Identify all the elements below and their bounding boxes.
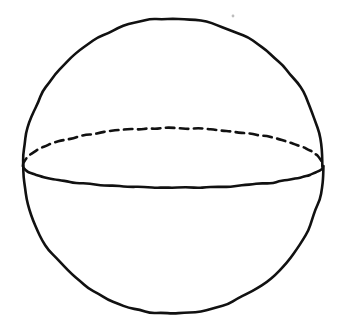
figure-background xyxy=(0,0,338,325)
figure-canvas xyxy=(0,0,338,325)
sphere-figure-svg xyxy=(0,0,338,325)
scan-speck xyxy=(232,15,235,18)
